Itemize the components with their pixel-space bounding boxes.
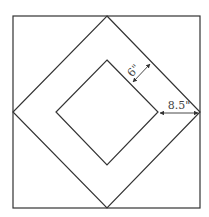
inner-diamond <box>56 60 158 165</box>
band-width-label: 6" <box>125 62 143 80</box>
diagram-svg: 6" 8.5" <box>0 0 209 217</box>
outer-square <box>13 16 200 208</box>
outer-diamond <box>13 16 200 208</box>
gap-width-label: 8.5" <box>168 99 191 112</box>
diagram-canvas: 6" 8.5" <box>0 0 209 217</box>
